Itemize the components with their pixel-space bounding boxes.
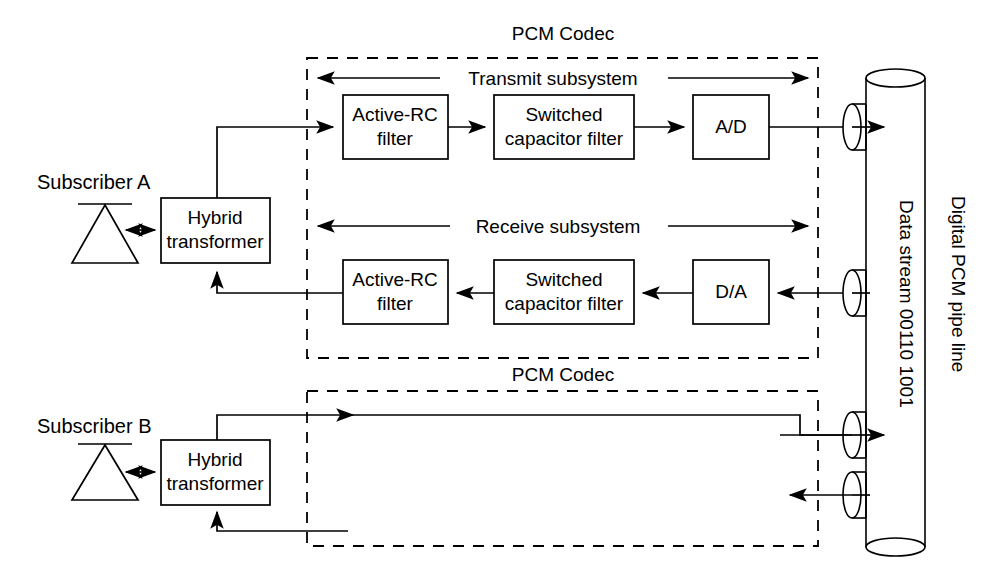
transmit-block-switched-capacitor: Switched capacitor filter	[494, 95, 634, 159]
codec-a-label: PCM Codec	[512, 23, 614, 44]
subscriber-b-group: Subscriber B Hybrid transformer	[37, 415, 270, 505]
transmit-subsystem-label: Transmit subsystem	[468, 68, 637, 89]
receive-block-switched-capacitor: Switched capacitor filter	[494, 260, 634, 324]
subscriber-b-label: Subscriber B	[37, 415, 152, 437]
receive-block-active-rc: Active-RC filter	[343, 260, 448, 324]
digital-pcm-pipe-label: Digital PCM pipe line	[948, 196, 969, 372]
active-rc-to-hybrid-a-line	[217, 272, 343, 293]
hybrid-a-to-active-rc-line	[217, 127, 333, 198]
data-stream-label: Data stream 00110 1001	[896, 200, 917, 408]
transmit-subsystem-group: Transmit subsystem	[318, 68, 808, 89]
pipe-bottom-cap	[866, 538, 925, 556]
pipe-tap-2	[843, 270, 870, 316]
hybrid-transformer-b-line1: Hybrid	[188, 449, 243, 470]
transmit-switched-capacitor-line2: capacitor filter	[505, 128, 624, 149]
pipe-tap-1	[843, 104, 884, 150]
diagram-canvas: PCM Codec Transmit subsystem Active-RC f…	[0, 0, 984, 579]
subscriber-a-terminal-icon	[72, 205, 138, 263]
hybrid-transformer-a-line2: transformer	[166, 231, 264, 252]
codec-b-transmit-feeder	[353, 415, 852, 435]
codec-b-label: PCM Codec	[512, 364, 614, 385]
hybrid-transformer-a-line1: Hybrid	[188, 207, 243, 228]
receive-subsystem-label: Receive subsystem	[476, 216, 641, 237]
receive-active-rc-line1: Active-RC	[352, 269, 438, 290]
transmit-ad-label: A/D	[715, 116, 747, 137]
receive-active-rc-line2: filter	[377, 293, 414, 314]
receive-switched-capacitor-line2: capacitor filter	[505, 293, 624, 314]
receive-switched-capacitor-line1: Switched	[525, 269, 602, 290]
subscriber-a-label: Subscriber A	[37, 171, 151, 193]
receive-block-da: D/A	[693, 260, 769, 324]
codec-b-group: PCM Codec	[307, 364, 818, 546]
transmit-active-rc-line2: filter	[377, 128, 414, 149]
pipe-top-cap	[866, 69, 925, 87]
hybrid-b-transmit-stub	[217, 415, 353, 440]
transmit-block-active-rc: Active-RC filter	[343, 95, 448, 159]
receive-da-label: D/A	[715, 281, 747, 302]
hybrid-b-receive-stub	[217, 512, 348, 531]
transmit-block-ad: A/D	[693, 95, 769, 159]
transmit-switched-capacitor-line1: Switched	[525, 104, 602, 125]
transmit-active-rc-line1: Active-RC	[352, 104, 438, 125]
subscriber-a-group: Subscriber A Hybrid transformer	[37, 171, 270, 263]
hybrid-transformer-b-line2: transformer	[166, 473, 264, 494]
pcm-codec-diagram: PCM Codec Transmit subsystem Active-RC f…	[0, 0, 984, 579]
receive-subsystem-group: Receive subsystem	[318, 216, 808, 237]
